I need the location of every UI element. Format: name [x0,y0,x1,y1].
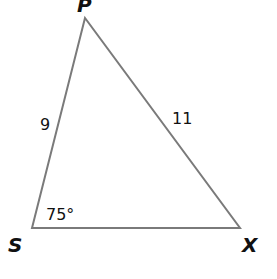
triangle-diagram: P S X 9 11 75° [0,0,277,279]
side-label-px: 11 [172,109,192,128]
side-label-sp: 9 [40,115,50,134]
angle-label-s: 75° [46,205,74,224]
vertex-label-s: S [8,233,22,257]
triangle-psx [32,18,240,228]
vertex-label-x: X [240,233,259,257]
vertex-label-p: P [77,0,92,17]
